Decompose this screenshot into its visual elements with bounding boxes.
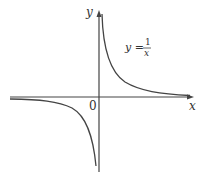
- equation-lhs: y =: [124, 41, 144, 54]
- graph-canvas: y x 0 y = 1 x: [0, 0, 205, 177]
- equation-numerator: 1: [145, 37, 151, 47]
- curve-branch-negative: [10, 99, 96, 166]
- origin-label: 0: [89, 99, 97, 113]
- x-axis-label: x: [189, 99, 196, 113]
- y-axis-arrow-icon: [97, 10, 102, 17]
- y-axis-label: y: [85, 5, 93, 19]
- equation-denominator: x: [144, 48, 149, 58]
